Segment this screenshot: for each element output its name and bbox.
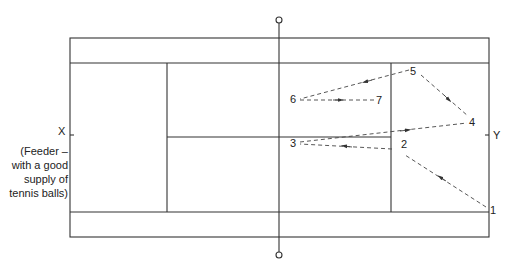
court-lines	[70, 23, 489, 252]
label-y: Y	[493, 129, 500, 141]
position-6-label: 6	[290, 93, 296, 105]
path-3-4	[300, 123, 467, 142]
path-5-6	[300, 70, 409, 99]
position-4-label: 4	[469, 116, 475, 128]
net-post-bottom	[276, 252, 282, 258]
net-post-top	[276, 17, 282, 23]
drill-paths	[300, 70, 486, 207]
tennis-court-diagram	[0, 0, 511, 273]
position-3-label: 3	[290, 137, 296, 149]
position-5-label: 5	[410, 65, 416, 77]
position-1-label: 1	[490, 204, 496, 216]
feeder-note: (Feeder – with a good supply of tennis b…	[0, 144, 68, 200]
position-7-label: 7	[376, 94, 382, 106]
label-x: X	[58, 125, 65, 137]
position-2-label: 2	[401, 138, 407, 150]
